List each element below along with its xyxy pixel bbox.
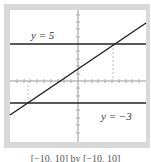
label-y-equals-neg3: y = −3	[101, 110, 132, 122]
label-y-equals-5: y = 5	[31, 29, 54, 41]
graph-canvas	[0, 0, 151, 162]
window-caption: [−10, 10] by [−10, 10]	[0, 153, 151, 162]
y-axis	[76, 10, 80, 142]
